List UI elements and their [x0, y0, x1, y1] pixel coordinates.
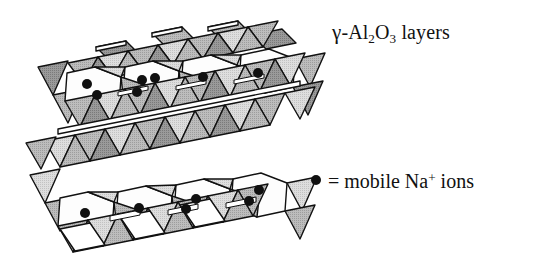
na-charge-superscript: +: [428, 170, 435, 185]
structure-body: [26, 21, 325, 252]
na-ion: [181, 204, 191, 214]
oxygen-symbol: O: [375, 21, 390, 43]
gamma-symbol: γ: [332, 20, 341, 44]
na-ion: [191, 194, 201, 204]
oxygen-subscript: 3: [390, 31, 397, 46]
na-ion-legend-dot: [311, 175, 321, 185]
na-ion: [82, 79, 92, 89]
na-ion: [198, 72, 208, 82]
legend-text: = mobile Na+ ions: [328, 166, 474, 193]
aluminium-symbol: Al: [348, 21, 368, 43]
sodium-ion-legend: = mobile Na+ ions: [311, 166, 474, 193]
na-ion: [244, 196, 254, 206]
na-ion: [253, 68, 263, 78]
na-ion: [254, 185, 264, 195]
na-ion: [132, 87, 142, 97]
legend-text-after: ions: [441, 170, 474, 192]
na-ion: [137, 75, 147, 85]
na-ion: [80, 208, 90, 218]
layers-word: layers: [401, 21, 449, 43]
gamma-alumina-layers-label: γ-Al2O3 layers: [332, 20, 450, 51]
legend-text-before: mobile Na: [344, 170, 428, 192]
na-ion: [150, 73, 160, 83]
crystal-structure-figure: γ-Al2O3 layers = mobile Na+ ions: [0, 0, 539, 274]
equals-sign: =: [328, 170, 339, 192]
na-ion: [92, 90, 102, 100]
beta-alumina-diagram: [0, 0, 539, 274]
na-ion: [134, 203, 144, 213]
